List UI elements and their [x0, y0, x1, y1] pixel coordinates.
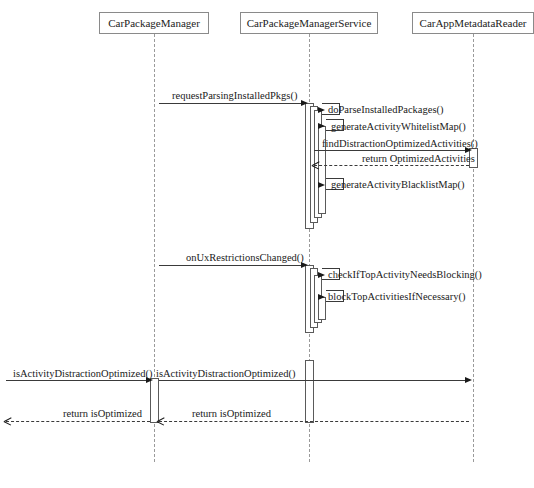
message-arrowhead-m8: [318, 272, 325, 278]
participant-label: CarPackageManager: [108, 18, 200, 29]
message-label-m2: doParseInstalledPackages(): [328, 105, 443, 116]
message-line-m10: [6, 380, 150, 381]
uml-sequence-diagram: CarPackageManagerCarPackageManagerServic…: [0, 0, 534, 488]
message-arrowhead-m1: [301, 100, 308, 106]
message-arrowhead-m6: [318, 182, 325, 188]
message-arrowhead-m9: [318, 294, 325, 300]
message-label-m1: requestParsingInstalledPkgs(): [172, 91, 297, 102]
message-label-m9: blockTopActivitiesIfNecessary(): [328, 292, 465, 303]
participant-box-car-package-manager: CarPackageManager: [99, 12, 209, 34]
message-label-m13: return isOptimized: [63, 409, 142, 420]
participant-label: CarPackageManagerService: [247, 18, 372, 29]
message-label-m10: isActivityDistractionOptimized(): [13, 369, 152, 380]
message-label-m8: checkIfTopActivityNeedsBlocking(): [328, 270, 482, 281]
message-line-m4: [314, 150, 469, 151]
message-line-m5: [314, 165, 469, 166]
message-arrowhead-m11: [465, 377, 472, 383]
participant-box-car-package-manager-service: CarPackageManagerService: [240, 12, 378, 34]
message-line-m13: [6, 421, 150, 422]
activation-bar: [318, 297, 326, 320]
lifeline-car-app-metadata-reader: [473, 34, 474, 462]
activation-bar: [305, 360, 314, 423]
message-label-m6: generateActivityBlacklistMap(): [331, 180, 465, 191]
message-label-m11: isActivityDistractionOptimized(): [156, 369, 295, 380]
message-label-m12: return isOptimized: [192, 409, 271, 420]
participant-box-car-app-metadata-reader: CarAppMetadataReader: [412, 12, 534, 34]
participant-label: CarAppMetadataReader: [420, 18, 527, 29]
message-label-m5: return OptimizedActivities: [362, 154, 475, 165]
message-line-m7: [159, 265, 305, 266]
message-arrowhead-m2: [318, 107, 325, 113]
message-line-m12: [159, 421, 469, 422]
message-label-m4: findDistractionOptimizedActivities(): [322, 139, 478, 150]
message-arrowhead-m12: [157, 417, 165, 425]
message-label-m3: generateActivityWhitelistMap(): [331, 122, 466, 133]
message-line-m11: [159, 380, 469, 381]
message-arrowhead-m3: [318, 123, 325, 129]
message-label-m7: onUxRestrictionsChanged(): [186, 253, 304, 264]
message-arrowhead-m5: [312, 161, 320, 169]
message-line-m1: [159, 103, 305, 104]
message-arrowhead-m13: [4, 417, 12, 425]
